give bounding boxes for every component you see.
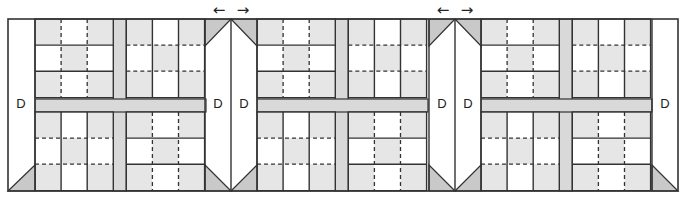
- patch: [309, 138, 335, 165]
- patch: [87, 19, 113, 46]
- patch: [348, 164, 374, 191]
- patch: [309, 45, 335, 72]
- quadrant-bottom-left: [481, 112, 559, 191]
- patch: [348, 138, 374, 165]
- patch: [533, 138, 559, 165]
- patch: [152, 112, 178, 139]
- patch: [507, 138, 533, 165]
- quadrant-bottom-left: [35, 112, 113, 191]
- setting-triangle: [429, 165, 455, 191]
- horizontal-sashing: [35, 99, 206, 112]
- patch: [283, 71, 309, 98]
- arrow-left-icon: ←: [213, 1, 226, 19]
- d-label: D: [239, 96, 248, 111]
- patch: [87, 164, 113, 191]
- patch: [126, 71, 152, 98]
- patch: [348, 19, 374, 46]
- patch: [374, 71, 400, 98]
- arrow-right-icon: →: [237, 1, 250, 19]
- patch: [309, 112, 335, 139]
- patch: [283, 19, 309, 46]
- patch: [598, 164, 624, 191]
- patch: [126, 164, 152, 191]
- patch: [507, 112, 533, 139]
- patch: [481, 112, 507, 139]
- patch: [257, 138, 283, 165]
- patch: [572, 19, 598, 46]
- patch: [533, 71, 559, 98]
- patch: [179, 164, 205, 191]
- quadrant-top-right: [348, 19, 426, 98]
- patch: [61, 138, 87, 165]
- patch: [507, 19, 533, 46]
- patch: [598, 45, 624, 72]
- patch: [87, 45, 113, 72]
- quadrant-top-right: [572, 19, 650, 98]
- patch: [179, 19, 205, 46]
- setting-triangle: [231, 19, 257, 46]
- patch: [598, 138, 624, 165]
- patch: [152, 71, 178, 98]
- patch: [35, 19, 61, 46]
- patch: [401, 45, 427, 72]
- patch: [35, 112, 61, 139]
- patch: [348, 45, 374, 72]
- patch: [257, 45, 283, 72]
- patch: [401, 138, 427, 165]
- patch: [309, 164, 335, 191]
- patch: [35, 138, 61, 165]
- patch: [481, 164, 507, 191]
- patch: [598, 112, 624, 139]
- patch: [401, 164, 427, 191]
- quadrant-bottom-right: [126, 112, 204, 191]
- patch: [283, 164, 309, 191]
- patch: [401, 112, 427, 139]
- patch: [533, 45, 559, 72]
- patch: [401, 19, 427, 46]
- patch: [572, 112, 598, 139]
- setting-triangle: [231, 165, 257, 191]
- quadrant-top-right: [126, 19, 204, 98]
- patch: [625, 112, 651, 139]
- corner-triangle: [8, 165, 35, 191]
- setting-triangle: [205, 165, 231, 191]
- patch: [374, 112, 400, 139]
- patch: [126, 19, 152, 46]
- patch: [572, 164, 598, 191]
- patch: [35, 164, 61, 191]
- patch: [348, 112, 374, 139]
- patch: [507, 71, 533, 98]
- patch: [309, 71, 335, 98]
- patch: [481, 45, 507, 72]
- d-label: D: [16, 96, 25, 111]
- setting-triangle: [429, 19, 455, 46]
- patch: [625, 71, 651, 98]
- patch: [283, 45, 309, 72]
- d-label: D: [213, 96, 222, 111]
- patch: [374, 45, 400, 72]
- patch: [61, 164, 87, 191]
- patch: [533, 112, 559, 139]
- patch: [507, 164, 533, 191]
- patch: [126, 45, 152, 72]
- quadrant-top-left: [257, 19, 335, 98]
- patch: [481, 19, 507, 46]
- patch: [35, 71, 61, 98]
- patch: [374, 19, 400, 46]
- patch: [507, 45, 533, 72]
- d-label: D: [437, 96, 446, 111]
- patch: [61, 112, 87, 139]
- patch: [283, 138, 309, 165]
- quilt-diagram: DDDDDD ← → ← →: [0, 0, 686, 202]
- patch: [61, 45, 87, 72]
- patch: [87, 71, 113, 98]
- d-label: D: [660, 96, 669, 111]
- patch: [309, 19, 335, 46]
- patch: [625, 164, 651, 191]
- patch: [572, 71, 598, 98]
- patch: [126, 138, 152, 165]
- setting-triangle: [455, 165, 481, 191]
- patch: [572, 45, 598, 72]
- quadrant-top-left: [35, 19, 113, 98]
- setting-triangle: [205, 19, 231, 46]
